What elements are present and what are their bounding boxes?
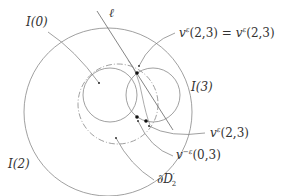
leader-v-neg	[138, 121, 173, 156]
leader-v-top-tip	[138, 65, 140, 67]
label-ell: ℓ	[109, 6, 114, 20]
label-boundary: ∂D′2	[157, 171, 176, 188]
tangency-point	[135, 71, 139, 75]
circle-boundary-dashed	[78, 64, 158, 144]
diagram-canvas: I(0) ℓ vε(2,3) = vε(2,3) I(3) I(2) vε(2,…	[0, 0, 281, 196]
label-boundary-sub: 2	[172, 180, 176, 188]
label-i0: I(0)	[25, 15, 48, 29]
point-bottom-left	[135, 115, 139, 119]
label-v-neg: v−ε(0,3)	[176, 148, 221, 162]
label-v-mid: vε(2,3)	[210, 126, 249, 140]
circle-left-small	[83, 68, 137, 122]
label-v-top-args: (2,3) =	[190, 26, 236, 40]
circle-i3	[126, 68, 180, 122]
leader-v-neg-tip	[137, 120, 139, 122]
leader-boundary-tip	[115, 137, 117, 139]
label-boundary-sup: ′	[173, 171, 175, 180]
leader-v-top	[139, 33, 175, 66]
label-v-top-args2: (2,3)	[246, 26, 274, 40]
leader-v-mid-tip	[148, 125, 150, 127]
leader-boundary	[116, 138, 154, 180]
label-i3: I(3)	[190, 80, 213, 94]
leader-v-mid	[149, 126, 205, 134]
label-v-top: vε(2,3) = vε(2,3)	[179, 26, 275, 40]
label-v-neg-args: (0,3)	[192, 148, 220, 162]
circle-i2	[24, 28, 192, 196]
leader-i0-tip	[98, 82, 100, 84]
label-v-neg-sup: −ε	[183, 148, 193, 156]
label-v-mid-args: (2,3)	[221, 126, 249, 140]
label-i2: I(2)	[7, 157, 30, 171]
point-bottom-right	[144, 119, 148, 123]
